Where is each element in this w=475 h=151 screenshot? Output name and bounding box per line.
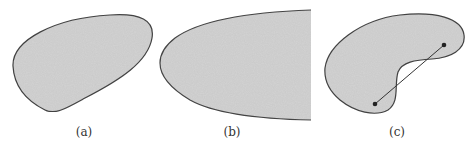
panel-c-label: (c): [389, 125, 405, 139]
figure: (a) (b) (c): [0, 0, 475, 151]
panel-b-label: (b): [223, 125, 240, 139]
segment-endpoint-1: [373, 102, 378, 107]
segment-endpoint-2: [442, 43, 447, 48]
panel-a-shape: [13, 15, 152, 112]
panel-a-label: (a): [76, 125, 93, 139]
panel-b-shape: [160, 10, 311, 120]
panel-c-shape: [325, 14, 464, 113]
